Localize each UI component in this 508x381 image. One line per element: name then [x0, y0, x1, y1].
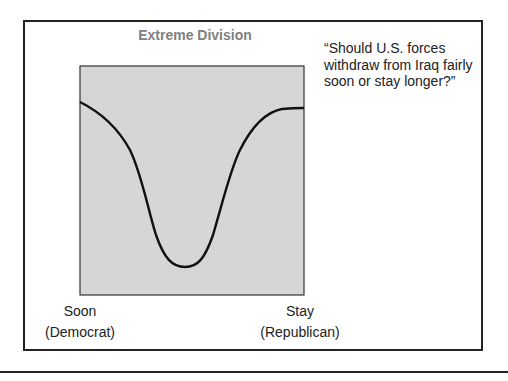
x-label-right-line1: Stay — [240, 303, 360, 319]
x-label-left-line1: Soon — [30, 303, 130, 319]
plot-area — [80, 66, 304, 295]
survey-question: “Should U.S. forces withdraw from Iraq f… — [324, 40, 484, 90]
bottom-rule — [0, 371, 508, 373]
x-label-left: Soon (Democrat) — [30, 303, 130, 340]
x-label-left-line2: (Democrat) — [30, 324, 130, 340]
x-label-right-line2: (Republican) — [240, 324, 360, 340]
x-label-right: Stay (Republican) — [240, 303, 360, 340]
